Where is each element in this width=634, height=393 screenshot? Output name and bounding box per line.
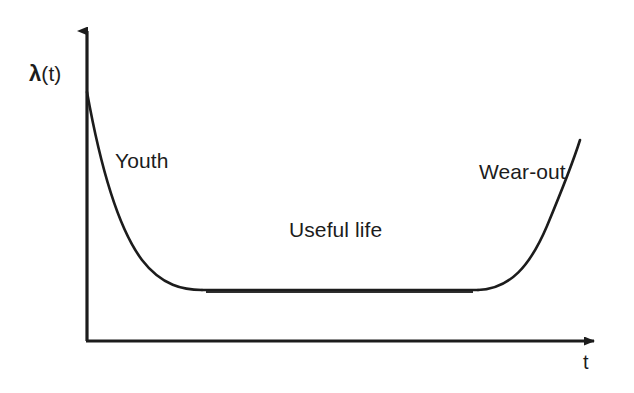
region-label-youth: Youth — [115, 150, 168, 171]
bathtub-curve-plot — [0, 0, 634, 393]
y-axis-label: λ(t) — [29, 63, 61, 85]
region-label-useful-life: Useful life — [289, 219, 382, 240]
y-axis-label-suffix: (t) — [41, 62, 61, 85]
curve-youth-segment — [87, 92, 202, 290]
bathtub-curve-figure: λ(t) t Youth Useful life Wear-out — [0, 0, 634, 393]
x-axis-label: t — [583, 352, 589, 372]
lambda-symbol: λ — [29, 61, 41, 86]
region-label-wear-out: Wear-out — [479, 161, 566, 182]
